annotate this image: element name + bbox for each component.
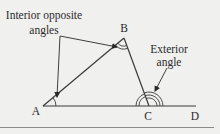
- vertex-label-d: D: [191, 110, 199, 122]
- pointer-to-exterior-angle: [155, 68, 167, 91]
- vertex-label-c: C: [144, 110, 152, 122]
- interior-label-line1: Interior opposite: [6, 9, 82, 22]
- exterior-label-line1: Exterior: [150, 43, 188, 55]
- diagram-canvas: Interior opposite angles Exterior angle …: [0, 0, 220, 134]
- triangle-diagram: Interior opposite angles Exterior angle …: [0, 0, 220, 134]
- side-ab: [43, 38, 124, 106]
- vertex-label-a: A: [32, 105, 41, 117]
- angle-arc-c-interior-inner: [139, 97, 146, 106]
- exterior-label-line2: angle: [157, 56, 182, 69]
- pointer-to-angle-a: [57, 36, 60, 97]
- pointer-to-angle-b: [60, 36, 117, 47]
- interior-label-line2: angles: [29, 24, 59, 37]
- angle-arc-a: [53, 98, 56, 106]
- vertex-label-b: B: [120, 22, 128, 34]
